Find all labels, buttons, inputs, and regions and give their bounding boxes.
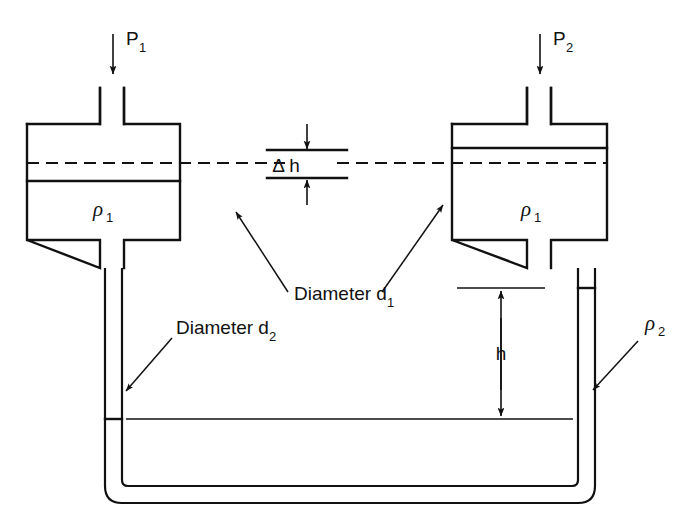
leader-diameter-1-right-arrow-icon <box>382 205 443 292</box>
pressure-right-subscript: 2 <box>566 40 573 55</box>
label-density-upper-left: ρ 1 <box>92 197 113 225</box>
leader-density-2-arrow-icon <box>593 341 638 390</box>
pressure-right-symbol: P <box>553 28 566 49</box>
density-lower-subscript: 2 <box>658 324 665 339</box>
pressure-left-subscript: 1 <box>139 40 146 55</box>
label-diameter-2: Diameter d 2 <box>176 317 276 344</box>
label-diameter-1: Diameter d 1 <box>294 283 394 310</box>
pressure-left-symbol: P <box>126 28 139 49</box>
diagram-canvas: P 1 P 2 ρ 1 ρ 1 ρ 2 Δ h h Diameter d <box>0 0 684 529</box>
right-chamber <box>452 88 607 268</box>
label-pressure-left: P 1 <box>126 28 146 55</box>
diameter-2-text: Diameter d <box>176 317 269 338</box>
leader-diameter-1-left-arrow-icon <box>236 212 288 292</box>
density-upper-left-subscript: 1 <box>106 210 113 225</box>
label-density-upper-right: ρ 1 <box>520 197 541 225</box>
h-label: h <box>496 343 507 364</box>
left-chamber <box>27 88 180 268</box>
leader-diameter-2-arrow-icon <box>126 338 172 391</box>
density-upper-right-symbol: ρ <box>520 197 531 221</box>
label-density-lower: ρ 2 <box>644 311 665 339</box>
diameter-2-subscript: 2 <box>269 329 276 344</box>
density-lower-symbol: ρ <box>644 311 655 335</box>
density-upper-right-subscript: 1 <box>534 210 541 225</box>
density-upper-left-symbol: ρ <box>92 197 103 221</box>
diameter-1-subscript: 1 <box>387 295 394 310</box>
manometer-diagram: P 1 P 2 ρ 1 ρ 1 ρ 2 Δ h h Diameter d <box>0 0 684 529</box>
diameter-1-text: Diameter d <box>294 283 387 304</box>
label-pressure-right: P 2 <box>553 28 573 55</box>
delta-h-label: Δ h <box>272 155 300 176</box>
